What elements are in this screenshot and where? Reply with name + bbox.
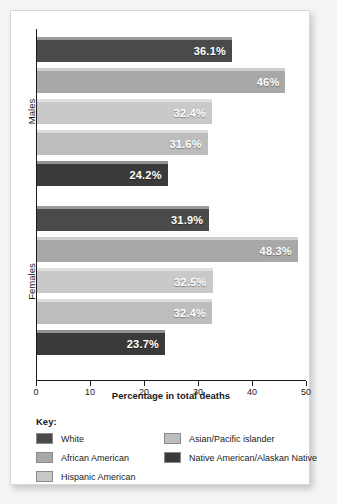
legend-label: Hispanic American (61, 472, 136, 482)
legend-swatch (164, 452, 181, 463)
legend: Key: WhiteAfrican AmericanHispanic Ameri… (36, 416, 301, 491)
group-label-males: Males (26, 82, 37, 142)
x-axis-tick (198, 381, 199, 386)
chart-bar: 32.5% (37, 268, 213, 293)
group-label-females: Females (26, 252, 37, 312)
legend-item: Asian/Pacific islander (164, 433, 275, 444)
legend-item: White (36, 433, 84, 444)
x-axis-tick (306, 381, 307, 386)
legend-label: Asian/Pacific islander (189, 434, 275, 444)
bar-value-label: 48.3% (260, 245, 298, 257)
bar-value-label: 23.7% (127, 338, 165, 350)
chart-bar: 24.2% (37, 161, 168, 186)
legend-item: Hispanic American (36, 471, 136, 482)
x-axis-tick (252, 381, 253, 386)
bar-value-label: 24.2% (129, 169, 167, 181)
legend-label: African American (61, 453, 129, 463)
x-axis-line (36, 380, 306, 381)
legend-label: White (61, 434, 84, 444)
page-background: Males Females 01020304050 36.1%46%32.4%3… (0, 0, 337, 504)
x-axis-tick (144, 381, 145, 386)
plot-area: 01020304050 36.1%46%32.4%31.6%24.2%31.9%… (36, 29, 306, 381)
legend-item: Native American/Alaskan Native (164, 452, 317, 463)
chart-card: Males Females 01020304050 36.1%46%32.4%3… (10, 10, 310, 485)
legend-items: WhiteAfrican AmericanHispanic AmericanAs… (36, 433, 301, 491)
x-axis-tick (36, 381, 37, 386)
x-axis-label: Percentage in total deaths (36, 390, 306, 401)
chart-bar: 31.9% (37, 206, 209, 231)
bar-value-label: 32.4% (174, 307, 212, 319)
legend-title: Key: (36, 416, 301, 427)
chart-bar: 31.6% (37, 130, 208, 155)
legend-swatch (36, 433, 53, 444)
chart-bar: 46% (37, 68, 285, 93)
chart-bar: 23.7% (37, 330, 165, 355)
chart-bar: 32.4% (37, 299, 212, 324)
bar-value-label: 31.6% (169, 138, 207, 150)
bar-value-label: 31.9% (171, 214, 209, 226)
chart-bar: 48.3% (37, 237, 298, 262)
bar-value-label: 46% (257, 76, 286, 88)
chart-bar: 32.4% (37, 99, 212, 124)
legend-label: Native American/Alaskan Native (189, 453, 317, 463)
bar-value-label: 32.4% (174, 107, 212, 119)
bar-value-label: 36.1% (194, 45, 232, 57)
legend-swatch (164, 433, 181, 444)
bar-value-label: 32.5% (174, 276, 212, 288)
x-axis-tick (90, 381, 91, 386)
legend-swatch (36, 471, 53, 482)
chart-bar: 36.1% (37, 37, 232, 62)
legend-item: African American (36, 452, 129, 463)
legend-swatch (36, 452, 53, 463)
